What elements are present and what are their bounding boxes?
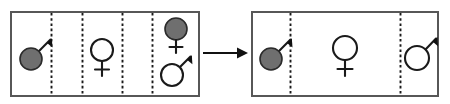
venus-symbol-circle: [165, 18, 187, 40]
mars-symbol-circle: [260, 48, 282, 70]
diagram-svg: [0, 0, 450, 104]
right-panel: [252, 12, 438, 96]
transition-arrow: [203, 48, 248, 59]
venus-symbol-circle: [91, 39, 113, 61]
mars-symbol-circle: [405, 46, 429, 70]
venus-symbol-circle: [333, 36, 357, 60]
figure-canvas: [0, 0, 450, 104]
left-panel: [11, 12, 199, 96]
transition-arrow-head: [237, 48, 248, 59]
mars-symbol-circle: [20, 48, 42, 70]
mars-symbol-circle: [161, 64, 183, 86]
